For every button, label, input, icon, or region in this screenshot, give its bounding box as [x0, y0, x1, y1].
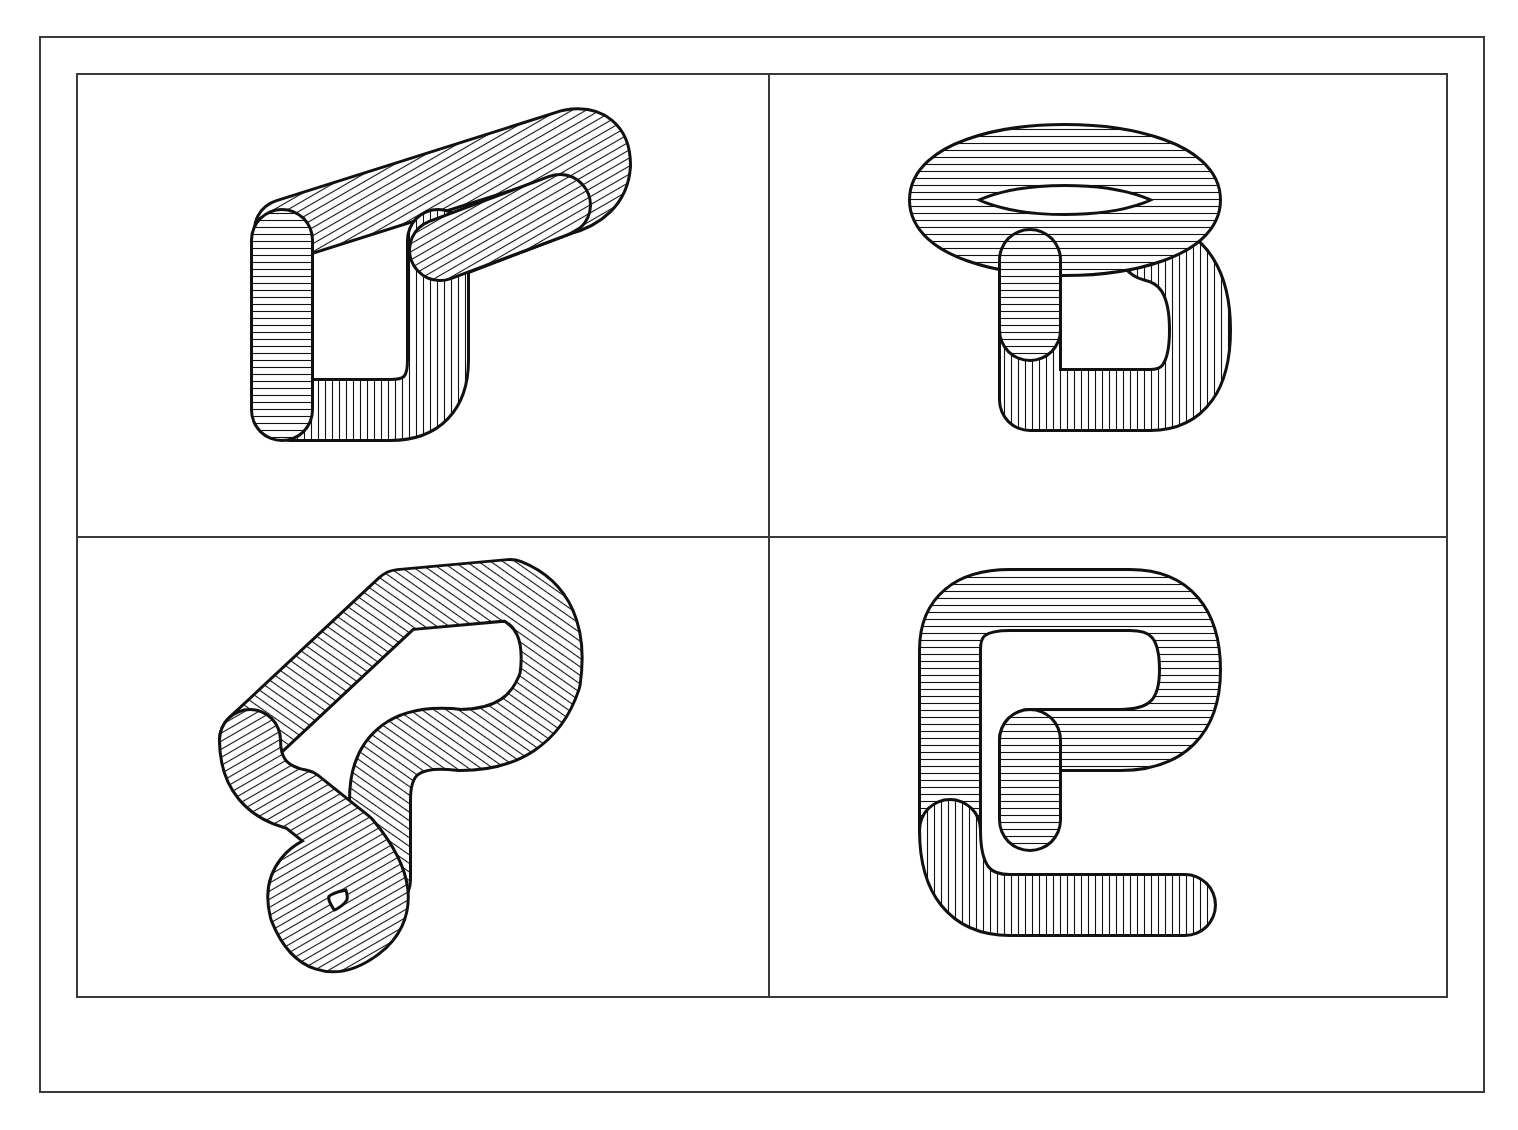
knot-top-right: [940, 155, 1200, 400]
knot-bottom-left: [250, 590, 552, 941]
knot-bottom-right: [950, 600, 1190, 905]
knot-illustrations: [0, 0, 1518, 1130]
knot-top-left: [282, 139, 600, 410]
